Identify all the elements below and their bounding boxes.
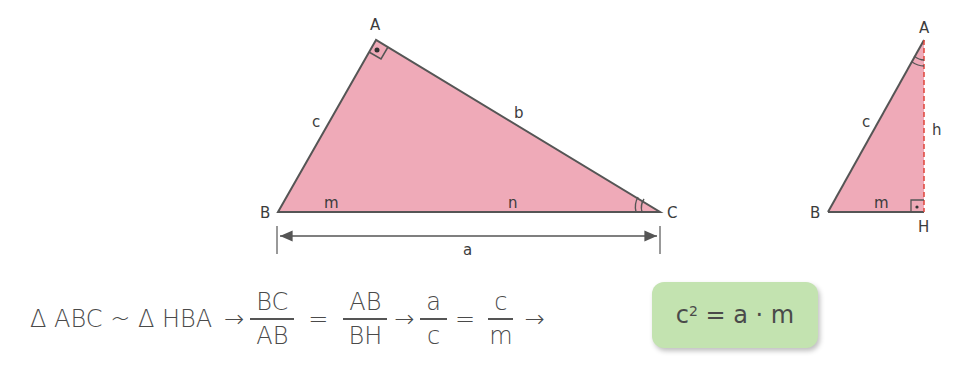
equals-sign: = — [308, 305, 328, 333]
numerator: BC — [250, 289, 294, 320]
vertex-label-c: C — [667, 204, 677, 222]
segment-label-n: n — [508, 194, 518, 212]
side-label-c-small: c — [862, 113, 870, 131]
result-base: c — [676, 301, 689, 329]
denominator: BH — [342, 320, 388, 349]
arrow-icon: → — [224, 305, 244, 333]
vertex-label-a: A — [370, 16, 381, 34]
side-label-b: b — [514, 104, 524, 122]
result-box: c2 = a · m — [652, 282, 818, 348]
numerator: AB — [343, 289, 387, 320]
fraction-ab-bh: AB BH — [342, 289, 388, 350]
arrow-icon: → — [394, 305, 414, 333]
vertex-label-h: H — [918, 218, 929, 236]
segment-label-m-small: m — [874, 194, 889, 212]
arrow-icon: → — [525, 305, 545, 333]
equals-sign: = — [455, 305, 475, 333]
fraction-bc-ab: BC AB — [250, 289, 294, 350]
side-label-a: a — [463, 241, 472, 259]
result-exponent: 2 — [689, 303, 698, 319]
similarity-statement: Δ ABC ~ Δ HBA — [30, 305, 212, 333]
segment-label-m: m — [324, 194, 339, 212]
side-label-c: c — [312, 113, 320, 131]
similarity-derivation: Δ ABC ~ Δ HBA → BC AB = AB BH → a c = c … — [30, 284, 545, 354]
numerator: c — [488, 289, 513, 320]
fraction-a-c: a c — [420, 289, 447, 350]
denominator: AB — [250, 320, 294, 349]
vertex-label-b: B — [260, 204, 270, 222]
vertex-label-a-small: A — [919, 19, 930, 37]
denominator: m — [483, 320, 518, 349]
small-triangle: A B H c h m — [810, 19, 942, 236]
result-rhs: = a · m — [698, 301, 794, 329]
numerator: a — [420, 289, 447, 320]
side-label-h: h — [932, 121, 942, 139]
dimension-line-a: a — [277, 226, 660, 259]
fraction-c-m: c m — [483, 289, 518, 350]
vertex-label-b-small: B — [810, 204, 820, 222]
main-triangle: A B C c b m n — [260, 16, 677, 222]
denominator: c — [421, 320, 446, 349]
